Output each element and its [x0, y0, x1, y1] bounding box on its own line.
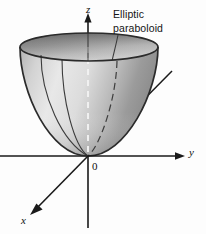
paraboloid-outer-surface	[20, 47, 158, 156]
elliptic-paraboloid-figure: Elliptic paraboloid z y x 0	[0, 0, 206, 234]
axis-x-negative-near	[30, 156, 88, 215]
axis-label-y: y	[189, 147, 194, 158]
paraboloid-diagram-svg	[0, 0, 206, 234]
surface-caption: Elliptic paraboloid	[113, 7, 199, 35]
origin-label: 0	[92, 161, 98, 172]
axis-label-z: z	[86, 4, 90, 15]
axis-label-x: x	[21, 215, 26, 226]
